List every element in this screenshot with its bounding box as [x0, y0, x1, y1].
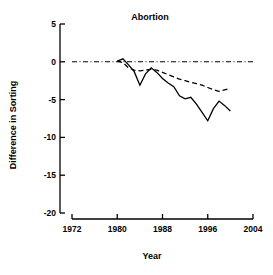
y-axis-title: Difference in Sorting — [8, 81, 18, 170]
x-axis-title: Year — [142, 251, 162, 261]
y-tick-label: -15 — [44, 170, 57, 180]
data-series-group — [117, 59, 230, 121]
series-line-observed — [117, 59, 230, 121]
y-tick-label: -5 — [48, 95, 56, 105]
x-tick-label: 2004 — [244, 224, 263, 234]
chart-container: Abortion Difference in Sorting Year 50-5… — [0, 0, 273, 275]
x-tick-label: 1972 — [63, 224, 82, 234]
abortion-line-chart: Abortion Difference in Sorting Year 50-5… — [0, 0, 273, 275]
chart-title: Abortion — [131, 12, 169, 22]
y-tick-label: 5 — [51, 19, 56, 29]
y-tick-label: -10 — [44, 132, 57, 142]
y-tick-label: 0 — [51, 57, 56, 67]
x-tick-label: 1988 — [153, 224, 172, 234]
x-axis: 19721980198819962004 — [63, 214, 263, 234]
x-tick-label: 1996 — [198, 224, 217, 234]
x-tick-label: 1980 — [108, 224, 127, 234]
y-tick-label: -20 — [44, 208, 57, 218]
y-axis: 50-5-10-15-20 — [44, 19, 65, 218]
